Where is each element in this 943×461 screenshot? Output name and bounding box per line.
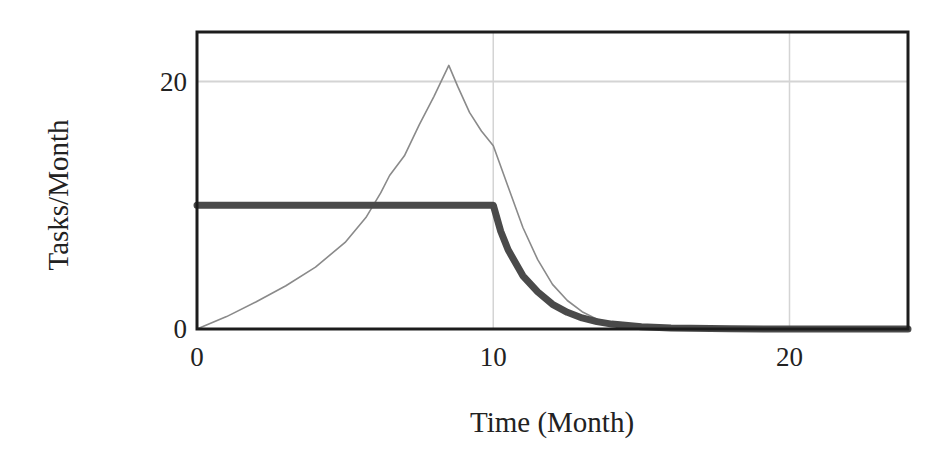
x-tick-label: 20 xyxy=(776,342,803,372)
thick-series-line xyxy=(197,205,908,329)
y-tick-label: 0 xyxy=(174,314,188,344)
x-axis-title: Time (Month) xyxy=(470,406,634,439)
chart: 020 01020 Time (Month) Tasks/Month xyxy=(0,0,943,461)
thin-series-line xyxy=(197,65,908,329)
series-group xyxy=(197,65,908,329)
x-tick-label: 0 xyxy=(190,342,204,372)
x-tick-labels: 01020 xyxy=(190,342,803,372)
y-axis-title: Tasks/Month xyxy=(42,119,74,271)
y-tick-label: 20 xyxy=(160,67,187,97)
y-tick-labels: 020 xyxy=(160,67,187,345)
x-tick-label: 10 xyxy=(480,342,507,372)
